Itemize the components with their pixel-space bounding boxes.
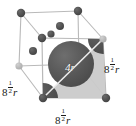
diagonal-label: 4r [65,62,75,73]
cube-edge-back-bottom-left [19,66,43,98]
edge-label-bottom-variable: r [66,114,70,126]
corner-atom-front-bottom-right [102,94,110,102]
fcc-unit-cell-figure: 812r 812r 812r 4r [0,0,136,126]
interior-atom-2 [47,30,54,37]
corner-atom-front-top-right [99,35,106,42]
corner-atom-front-top-left [38,34,46,42]
interior-atom-3 [29,47,37,55]
edge-label-left: 812r [2,80,17,98]
edge-label-left-variable: r [13,86,17,98]
edge-label-right-variable: r [115,63,119,75]
corner-atom-back-top-left [17,9,25,17]
edge-label-right: 812r [104,57,119,75]
cube-edge-back-top-right [78,11,103,39]
interior-atom-1 [56,22,64,30]
corner-atom-back-bottom-left [15,62,22,69]
corner-atom-front-bottom-left [39,94,47,102]
corner-atom-back-top-right [74,7,82,15]
edge-label-bottom: 812r [55,108,70,126]
